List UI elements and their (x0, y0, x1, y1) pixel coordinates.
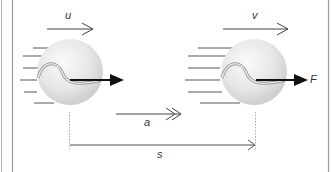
kinematics-diagram: u v a s F (0, 0, 331, 172)
displacement-label: s (157, 149, 163, 160)
initial-velocity-arrow (47, 23, 93, 35)
force-label: F (310, 74, 317, 85)
final-velocity-arrow (223, 23, 288, 35)
final-velocity-label: v (252, 10, 258, 21)
initial-velocity-label: u (65, 10, 71, 21)
diagram-canvas (0, 0, 331, 172)
acceleration-label: a (144, 117, 150, 128)
tennis-ball-initial (37, 39, 103, 105)
tennis-ball-final (221, 39, 287, 105)
